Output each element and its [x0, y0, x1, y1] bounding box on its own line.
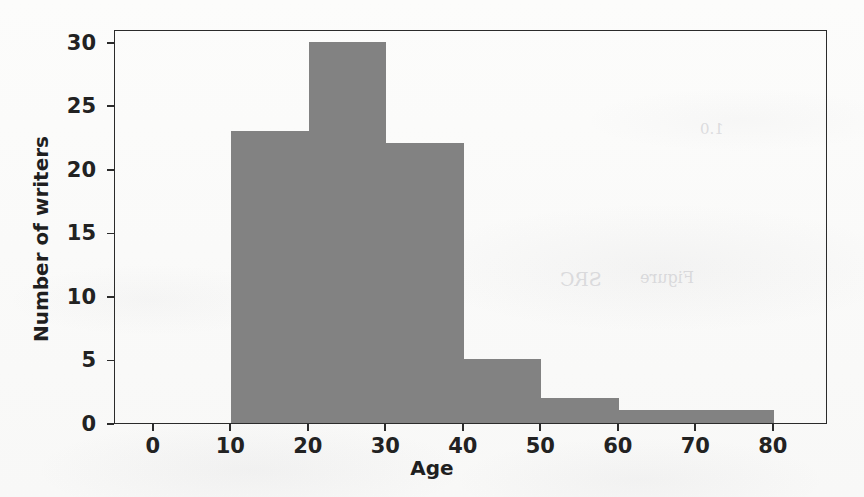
x-tick-label: 30: [371, 434, 400, 458]
y-tick-mark: [107, 423, 114, 425]
histogram-bar: [309, 42, 387, 423]
x-tick-label: 20: [293, 434, 322, 458]
x-axis-label: Age: [0, 456, 864, 480]
x-tick-label: 50: [526, 434, 555, 458]
x-tick-label: 70: [681, 434, 710, 458]
histogram-chart: 01020304050607080 051015202530 Age Numbe…: [0, 0, 864, 497]
x-tick-mark: [539, 424, 541, 431]
scanned-page: 1.0SRCRatioAverageFigure 010203040506070…: [0, 0, 864, 497]
y-tick-mark: [107, 296, 114, 298]
x-tick-mark: [772, 424, 774, 431]
y-tick-mark: [107, 233, 114, 235]
x-tick-mark: [617, 424, 619, 431]
y-tick-mark: [107, 169, 114, 171]
y-tick-mark: [107, 42, 114, 44]
x-tick-mark: [384, 424, 386, 431]
y-tick-mark: [107, 105, 114, 107]
x-tick-mark: [694, 424, 696, 431]
x-tick-label: 80: [758, 434, 787, 458]
y-tick-label: 25: [24, 94, 96, 118]
x-tick-mark: [462, 424, 464, 431]
y-tick-label: 30: [24, 31, 96, 55]
histogram-bar: [619, 410, 697, 423]
x-tick-label: 10: [216, 434, 245, 458]
x-tick-label: 60: [603, 434, 632, 458]
x-tick-mark: [307, 424, 309, 431]
histogram-bar: [541, 398, 619, 423]
histogram-bar: [231, 131, 309, 423]
plot-area: [114, 30, 827, 424]
y-axis-label: Number of writers: [29, 136, 53, 342]
histogram-bar: [386, 143, 464, 423]
y-tick-label: 0: [24, 412, 96, 436]
y-tick-mark: [107, 360, 114, 362]
x-tick-mark: [229, 424, 231, 431]
x-tick-mark: [152, 424, 154, 431]
y-tick-label: 5: [24, 348, 96, 372]
histogram-bar: [464, 359, 542, 423]
histogram-bar: [696, 410, 774, 423]
x-tick-label: 40: [448, 434, 477, 458]
x-tick-label: 0: [145, 434, 160, 458]
